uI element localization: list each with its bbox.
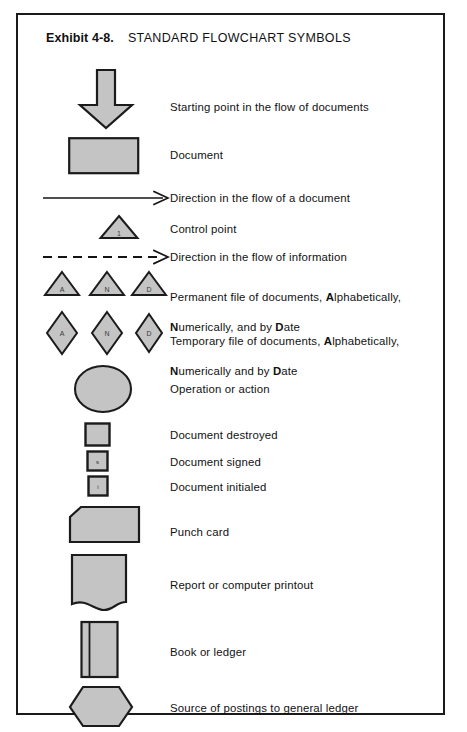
symbol-triangle-trio-permanent-file: A N D — [43, 270, 168, 298]
row-label-document: Document — [170, 148, 223, 163]
symbol-diamond-trio-temporary-file: A N D — [43, 310, 168, 356]
symbol-control-point-triangle: 1 — [98, 214, 140, 240]
page-title: STANDARD FLOWCHART SYMBOLS — [128, 31, 351, 45]
row-label-book-or-ledger: Book or ledger — [170, 645, 246, 660]
square-glyph-initialed: i — [97, 484, 98, 490]
symbol-report-printout — [70, 552, 132, 612]
symbol-book-ledger — [80, 620, 122, 680]
symbol-hexagon-source-of-postings — [68, 685, 136, 729]
temporary-line1-post: lphabetically, — [332, 335, 399, 347]
svg-text:D: D — [146, 330, 151, 337]
temporary-line2-post: ate — [281, 365, 297, 377]
permanent-line1-bold: A — [326, 291, 334, 303]
diamond-alphabetical: A — [47, 312, 77, 354]
svg-text:A: A — [60, 330, 65, 337]
diamond-date: D — [136, 314, 162, 352]
square-glyph-signed: s — [96, 459, 99, 465]
exhibit-number-label: Exhibit 4-8. — [46, 31, 114, 45]
row-label-document-initialed: Document initialed — [170, 480, 266, 495]
row-label-temporary-file: Temporary file of documents, Alphabetica… — [170, 319, 399, 379]
svg-text:D: D — [146, 286, 151, 293]
symbol-operation-circle — [73, 364, 135, 414]
symbol-punch-card — [68, 505, 142, 545]
row-label-starting-point: Starting point in the flow of documents — [170, 100, 369, 115]
triangle-date: D — [132, 272, 166, 295]
exhibit-title-row: Exhibit 4-8.STANDARD FLOWCHART SYMBOLS — [46, 31, 351, 45]
symbol-document-initialed-square: i — [87, 475, 113, 499]
svg-text:A: A — [60, 286, 65, 293]
row-label-control-point: Control point — [170, 222, 237, 237]
exhibit-frame: Exhibit 4-8.STANDARD FLOWCHART SYMBOLS S… — [16, 13, 445, 715]
diamond-numerical: N — [92, 312, 122, 354]
row-label-report-printout: Report or computer printout — [170, 578, 313, 593]
symbol-document-signed-square: s — [86, 450, 112, 474]
symbol-document-rectangle — [68, 137, 140, 175]
symbol-down-block-arrow — [74, 68, 138, 130]
row-label-document-signed: Document signed — [170, 455, 261, 470]
permanent-line1-post: lphabetically, — [334, 291, 401, 303]
row-label-information-flow-direction: Direction in the flow of information — [170, 250, 347, 265]
svg-text:N: N — [104, 286, 109, 293]
temporary-line2-mid: umerically and by — [178, 365, 273, 377]
row-label-punch-card: Punch card — [170, 525, 229, 540]
temporary-line1-pre: Temporary file of documents, — [170, 335, 324, 347]
row-label-source-of-postings: Source of postings to general ledger — [170, 701, 358, 716]
temporary-line1-bold: A — [324, 335, 332, 347]
symbol-solid-arrow-right — [43, 191, 173, 205]
triangle-glyph-1: 1 — [117, 230, 121, 237]
permanent-line1-pre: Permanent file of documents, — [170, 291, 326, 303]
row-label-operation-or-action: Operation or action — [170, 382, 270, 397]
svg-text:N: N — [104, 330, 109, 337]
row-label-document-destroyed: Document destroyed — [170, 428, 278, 443]
symbol-dashed-arrow-right — [43, 250, 173, 264]
symbol-document-destroyed-square — [84, 422, 114, 448]
triangle-alphabetical: A — [45, 272, 79, 295]
triangle-numerical: N — [90, 272, 124, 295]
row-label-document-flow-direction: Direction in the flow of a document — [170, 191, 350, 206]
